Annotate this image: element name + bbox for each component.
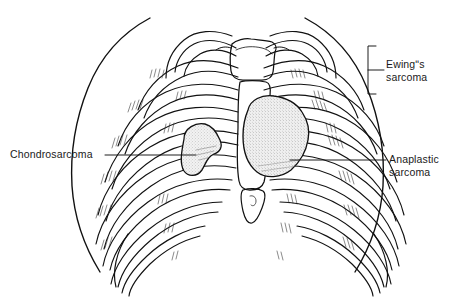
ewing-bracket — [368, 46, 384, 94]
rib-cage-figure: Chondrosarcoma Ewingʺs sarcoma Anaplasti… — [0, 0, 455, 302]
left-rib-group — [72, 18, 238, 296]
anaplastic-sarcoma-label: Anaplastic sarcoma — [389, 153, 439, 178]
anaplastic-sarcoma-mass — [243, 96, 309, 177]
ewing-sarcoma-label: Ewingʺs sarcoma — [386, 58, 427, 83]
chondrosarcoma-mass — [181, 124, 221, 176]
chondrosarcoma-label: Chondrosarcoma — [10, 148, 93, 161]
